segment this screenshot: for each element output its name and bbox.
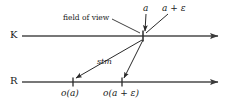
field-of-view-leader-line — [112, 19, 140, 33]
label-o-a: o(a) — [61, 89, 79, 98]
label-o-a-plus-epsilon: o(a + ε) — [103, 89, 139, 98]
label-field-of-view: field of view — [63, 14, 109, 22]
label-a-plus-epsilon: a + ε — [162, 4, 185, 13]
k-axis-label: K — [10, 30, 17, 40]
a-pointer-arrow — [145, 14, 146, 31]
stm-arrow-to-o-a-eps — [124, 40, 143, 78]
label-a: a — [143, 4, 148, 13]
a-plus-eps-pointer-arrow — [146, 14, 168, 33]
label-stm: stm — [97, 58, 112, 66]
stm-field-of-view-diagram: K R a a + ε field of view stm o(a) o(a +… — [0, 0, 234, 110]
r-axis-label: R — [10, 76, 18, 86]
